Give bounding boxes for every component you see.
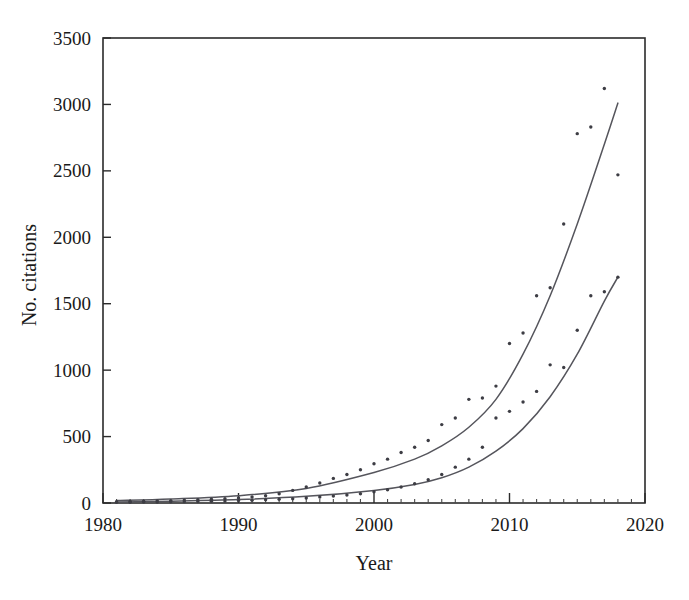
point-upper-series-2017 [603, 87, 606, 90]
point-lower-series-2010 [508, 410, 511, 413]
point-upper-series-2016 [589, 125, 592, 128]
point-lower-series-1999 [359, 492, 362, 495]
point-lower-series-2015 [576, 329, 579, 332]
point-upper-series-2018 [616, 173, 619, 176]
y-tick-label-500: 500 [63, 426, 92, 447]
point-upper-series-1992 [264, 494, 267, 497]
point-lower-series-2014 [562, 366, 565, 369]
point-lower-series-2005 [440, 473, 443, 476]
x-tick-label-1980: 1980 [84, 514, 122, 535]
point-upper-series-1999 [359, 468, 362, 471]
point-lower-series-2001 [386, 488, 389, 491]
point-upper-series-1998 [345, 473, 348, 476]
point-lower-series-1982 [128, 501, 131, 504]
point-lower-series-1996 [318, 495, 321, 498]
y-tick-label-0: 0 [82, 493, 92, 514]
point-lower-series-1989 [223, 499, 226, 502]
point-upper-series-1993 [277, 492, 280, 495]
point-lower-series-1987 [196, 500, 199, 503]
point-lower-series-2013 [548, 363, 551, 366]
point-lower-series-1994 [291, 497, 294, 500]
point-upper-series-1995 [305, 485, 308, 488]
y-tick-label-2500: 2500 [53, 160, 91, 181]
point-lower-series-2000 [372, 490, 375, 493]
point-upper-series-2005 [440, 423, 443, 426]
y-tick-label-3000: 3000 [53, 94, 91, 115]
x-axis-title: Year [356, 552, 393, 574]
point-lower-series-2011 [521, 400, 524, 403]
point-lower-series-2006 [454, 465, 457, 468]
point-upper-series-2009 [494, 384, 497, 387]
point-lower-series-2002 [399, 485, 402, 488]
x-tick-label-2010: 2010 [491, 514, 529, 535]
chart-canvas: 0500100015002000250030003500 19801990200… [0, 0, 689, 600]
point-lower-series-2016 [589, 294, 592, 297]
point-upper-series-1996 [318, 481, 321, 484]
y-tick-label-2000: 2000 [53, 227, 91, 248]
point-lower-series-2012 [535, 390, 538, 393]
point-upper-series-1994 [291, 489, 294, 492]
point-upper-series-2012 [535, 294, 538, 297]
point-lower-series-2003 [413, 482, 416, 485]
point-lower-series-1983 [142, 500, 145, 503]
point-lower-series-1998 [345, 493, 348, 496]
y-tick-label-3500: 3500 [53, 28, 91, 49]
x-tick-label-2020: 2020 [626, 514, 664, 535]
point-upper-series-2010 [508, 342, 511, 345]
y-tick-label-1500: 1500 [53, 293, 91, 314]
point-lower-series-1997 [332, 494, 335, 497]
point-lower-series-1985 [169, 500, 172, 503]
point-lower-series-1990 [237, 499, 240, 502]
point-lower-series-1992 [264, 498, 267, 501]
point-upper-series-2000 [372, 462, 375, 465]
point-upper-series-2001 [386, 457, 389, 460]
point-lower-series-1984 [156, 500, 159, 503]
point-upper-series-2003 [413, 446, 416, 449]
point-upper-series-2006 [454, 416, 457, 419]
point-upper-series-2004 [427, 439, 430, 442]
point-lower-series-1991 [250, 499, 253, 502]
point-lower-series-2004 [427, 478, 430, 481]
citation-growth-figure: 0500100015002000250030003500 19801990200… [0, 0, 689, 600]
point-upper-series-1997 [332, 477, 335, 480]
point-upper-series-1991 [250, 495, 253, 498]
point-lower-series-1993 [277, 498, 280, 501]
point-lower-series-1986 [183, 500, 186, 503]
x-tick-label-2000: 2000 [355, 514, 393, 535]
point-lower-series-1995 [305, 496, 308, 499]
point-lower-series-2008 [481, 446, 484, 449]
point-lower-series-2018 [616, 275, 619, 278]
point-lower-series-1981 [115, 501, 118, 504]
point-lower-series-2009 [494, 416, 497, 419]
point-lower-series-2017 [603, 290, 606, 293]
x-tick-label-1990: 1990 [220, 514, 258, 535]
point-upper-series-2015 [576, 132, 579, 135]
point-upper-series-2014 [562, 222, 565, 225]
point-lower-series-1988 [210, 500, 213, 503]
y-tick-label-1000: 1000 [53, 360, 91, 381]
point-lower-series-2007 [467, 457, 470, 460]
point-upper-series-2007 [467, 398, 470, 401]
point-upper-series-2008 [481, 396, 484, 399]
point-upper-series-2011 [521, 331, 524, 334]
point-upper-series-2013 [548, 286, 551, 289]
point-upper-series-2002 [399, 451, 402, 454]
y-axis-title: No. citations [18, 224, 40, 326]
